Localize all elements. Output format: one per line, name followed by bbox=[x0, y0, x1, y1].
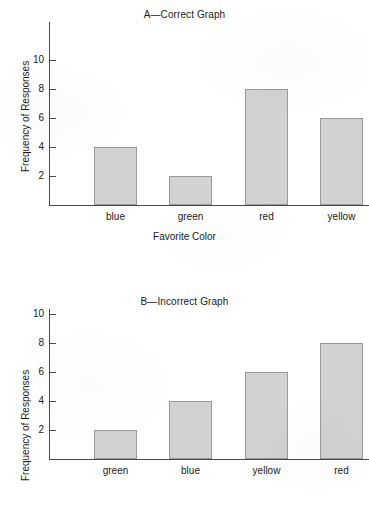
chart-b-y-tick-label-4: 4 bbox=[38, 394, 44, 407]
chart-a-container: A—Correct Graph Frequency of Responses 2… bbox=[0, 0, 369, 255]
chart-a-y-tick-10: 10 bbox=[50, 60, 56, 61]
chart-b-y-tick-label-8: 8 bbox=[38, 336, 44, 349]
chart-a-title: A—Correct Graph bbox=[0, 9, 369, 20]
chart-a-y-tick-label-10: 10 bbox=[33, 53, 44, 66]
chart-b-y-tick-4: 4 bbox=[50, 401, 56, 402]
chart-b-y-tick-8: 8 bbox=[50, 343, 56, 344]
chart-b-y-axis bbox=[49, 309, 50, 459]
chart-b-container: B—Incorrect Graph Frequency of Responses… bbox=[0, 255, 369, 509]
chart-a-plot-area: 246810bluegreenredyellow bbox=[49, 22, 369, 205]
chart-a-bar-green bbox=[169, 176, 212, 205]
chart-b-bar-green bbox=[94, 430, 137, 459]
chart-a-x-label-green: green bbox=[149, 211, 232, 222]
chart-a-bar-blue bbox=[94, 147, 137, 205]
chart-a-x-label-red: red bbox=[225, 211, 308, 222]
chart-b-bar-yellow bbox=[245, 372, 288, 459]
chart-b-x-label-green: green bbox=[74, 465, 157, 476]
chart-b-x-label-red: red bbox=[300, 465, 369, 476]
chart-b-y-tick-10: 10 bbox=[50, 314, 56, 315]
chart-a-x-axis-title: Favorite Color bbox=[0, 231, 369, 242]
chart-a-y-axis-title: Frequency of Responses bbox=[20, 61, 31, 172]
chart-b-title: B—Incorrect Graph bbox=[0, 296, 369, 307]
chart-a-y-axis bbox=[49, 22, 50, 205]
chart-a-y-tick-label-6: 6 bbox=[38, 111, 44, 124]
chart-b-x-axis bbox=[49, 459, 369, 460]
chart-b-y-tick-6: 6 bbox=[50, 372, 56, 373]
chart-b-y-tick-label-10: 10 bbox=[33, 307, 44, 320]
chart-a-y-tick-6: 6 bbox=[50, 118, 56, 119]
chart-a-y-tick-2: 2 bbox=[50, 176, 56, 177]
chart-a-y-tick-label-8: 8 bbox=[38, 82, 44, 95]
chart-b-bar-red bbox=[320, 343, 363, 459]
chart-b-x-label-yellow: yellow bbox=[225, 465, 308, 476]
chart-b-x-label-blue: blue bbox=[149, 465, 232, 476]
chart-a-x-label-yellow: yellow bbox=[300, 211, 369, 222]
chart-b-y-tick-2: 2 bbox=[50, 430, 56, 431]
chart-a-x-axis bbox=[49, 205, 369, 206]
chart-b-plot-area: 246810greenblueyellowred bbox=[49, 309, 369, 459]
chart-a-y-tick-label-2: 2 bbox=[38, 169, 44, 182]
chart-a-x-label-blue: blue bbox=[74, 211, 157, 222]
chart-a-y-tick-8: 8 bbox=[50, 89, 56, 90]
chart-b-y-tick-label-6: 6 bbox=[38, 365, 44, 378]
chart-b-y-axis-title: Frequency of Responses bbox=[20, 370, 31, 481]
chart-a-y-tick-label-4: 4 bbox=[38, 140, 44, 153]
chart-a-bar-yellow bbox=[320, 118, 363, 205]
chart-b-bar-blue bbox=[169, 401, 212, 459]
chart-a-y-tick-4: 4 bbox=[50, 147, 56, 148]
chart-b-y-tick-label-2: 2 bbox=[38, 423, 44, 436]
chart-a-bar-red bbox=[245, 89, 288, 205]
